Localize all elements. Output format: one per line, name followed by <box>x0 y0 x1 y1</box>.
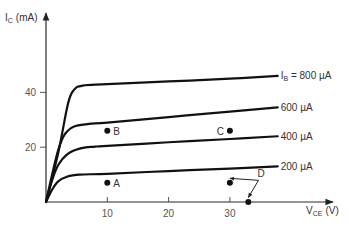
curve-label: 200 µA <box>281 161 313 172</box>
curve-ib-2 <box>46 136 278 202</box>
point-label: A <box>113 178 120 189</box>
output-characteristics-chart: IC(mA) VCE(V) 1020302040 IB = 800 µA600 … <box>0 0 350 230</box>
x-tick-label: 10 <box>102 208 114 219</box>
y-axis-label: IC(mA) <box>5 12 38 24</box>
annotation-arrow <box>248 180 258 197</box>
point-d2 <box>245 199 251 205</box>
x-tick-label: 30 <box>224 208 236 219</box>
point-c <box>227 128 233 134</box>
x-tick-label: 20 <box>163 208 175 219</box>
curve-ib-3 <box>46 166 278 202</box>
curve-label: 400 µA <box>281 131 313 142</box>
point-label: B <box>113 126 120 137</box>
curve-ib-1 <box>46 107 278 202</box>
point-b <box>104 128 110 134</box>
operating-points: ABC <box>104 126 251 205</box>
characteristic-curves <box>46 76 278 202</box>
curve-labels: IB = 800 µA600 µA400 µA200 µA <box>281 70 332 171</box>
point-label: C <box>217 126 224 137</box>
x-axis-label: VCE(V) <box>306 205 339 217</box>
curve-label: 600 µA <box>281 102 313 113</box>
curve-label: IB = 800 µA <box>281 70 332 82</box>
point-a <box>104 180 110 186</box>
point-d1 <box>227 180 233 186</box>
annotation-label: D <box>257 168 264 179</box>
y-tick-label: 40 <box>25 87 37 98</box>
annotation-arrow <box>230 178 259 180</box>
annotations: D <box>230 168 265 197</box>
y-tick-label: 20 <box>25 142 37 153</box>
